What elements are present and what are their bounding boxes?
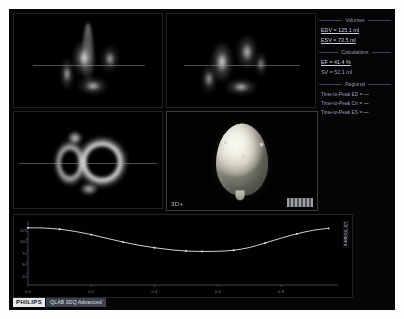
- y-tick-label: 25: [22, 274, 27, 279]
- measurement-edv[interactable]: EDV = 125.1 ml: [321, 27, 391, 35]
- section-header-volumes: Volumes: [319, 17, 391, 24]
- measurement-results-panel: Volumes EDV = 125.1 ml ESV = 73.5 ml Cal…: [319, 13, 391, 209]
- regional-row[interactable]: Time-to-Peak ES = ---: [321, 109, 391, 116]
- curve-point: [201, 251, 203, 253]
- echo-image-sax: [13, 111, 163, 209]
- curve-point: [185, 250, 187, 252]
- curve-point: [27, 227, 29, 229]
- regional-value: ---: [364, 110, 369, 115]
- volume-curve: [28, 228, 329, 252]
- crosshair-horizontal[interactable]: [33, 65, 145, 66]
- view-short-axis[interactable]: [13, 111, 163, 209]
- regional-row[interactable]: Time-to-Peak ED = ---: [321, 91, 391, 98]
- volume-time-chart[interactable]: 125100755025 0.00.20.40.60.8 LV Volume: [13, 214, 353, 298]
- view-apical-2ch[interactable]: [166, 13, 316, 108]
- screenshot-page: 3D+ Volumes EDV = 125.1 ml ESV = 73.5 ml…: [0, 0, 404, 319]
- regional-value: ---: [364, 92, 369, 97]
- measurement-ef[interactable]: EF = 41.4 %: [321, 59, 391, 67]
- view-3d-volume[interactable]: 3D+: [166, 111, 318, 211]
- curve-legend-label: LV Volume: [342, 221, 349, 248]
- regional-label: Time-to-Peak ES =: [321, 110, 362, 115]
- x-tick-label: 0.8: [278, 289, 284, 294]
- chart-x-axis: 0.00.20.40.60.8: [14, 289, 352, 297]
- ultrasound-console-screen: 3D+ Volumes EDV = 125.1 ml ESV = 73.5 ml…: [9, 9, 395, 310]
- curve-point: [154, 247, 156, 249]
- mode-badge-3d: 3D+: [171, 201, 183, 207]
- color-scale-key: [287, 198, 313, 207]
- philips-logo: PHILIPS: [13, 298, 45, 307]
- echo-image-a2c: [166, 13, 316, 108]
- product-name-label: QLAB 3DQ Advanced: [46, 298, 106, 307]
- curve-point: [296, 233, 298, 235]
- chart-plot-area: [14, 215, 352, 297]
- regional-value: ---: [364, 101, 369, 106]
- crosshair-horizontal[interactable]: [184, 65, 300, 66]
- curve-point: [233, 249, 235, 251]
- regional-row[interactable]: Time-to-Peak Ctr = ---: [321, 100, 391, 107]
- curve-point: [90, 234, 92, 236]
- curve-point: [59, 228, 61, 230]
- chart-y-axis: 125100755025: [15, 218, 27, 288]
- y-tick-label: 100: [20, 239, 27, 244]
- curve-point: [328, 227, 330, 229]
- crosshair-horizontal[interactable]: [19, 163, 157, 164]
- regional-label: Time-to-Peak Ctr =: [321, 101, 362, 106]
- curve-point: [264, 242, 266, 244]
- measurement-sv[interactable]: SV = 52.1 ml: [321, 69, 391, 77]
- section-header-regional: Regional: [319, 81, 391, 88]
- vendor-logo-bar: PHILIPS QLAB 3DQ Advanced: [13, 298, 106, 307]
- lv-cast-model[interactable]: [216, 124, 268, 196]
- echo-image-a4c: [13, 13, 163, 108]
- y-tick-label: 50: [22, 262, 27, 267]
- regional-label: Time-to-Peak ED =: [321, 92, 363, 97]
- view-apical-4ch[interactable]: [13, 13, 163, 108]
- y-tick-label: 75: [22, 251, 27, 256]
- section-header-calculations: Calculations: [319, 49, 391, 56]
- measurement-esv[interactable]: ESV = 73.5 ml: [321, 37, 391, 45]
- x-tick-label: 0.2: [88, 289, 94, 294]
- x-tick-label: 0.6: [215, 289, 221, 294]
- offscreen-edge-strip: [387, 18, 395, 80]
- curve-point: [122, 241, 124, 243]
- x-tick-label: 0.0: [25, 289, 31, 294]
- x-tick-label: 0.4: [151, 289, 157, 294]
- y-tick-label: 125: [20, 228, 27, 233]
